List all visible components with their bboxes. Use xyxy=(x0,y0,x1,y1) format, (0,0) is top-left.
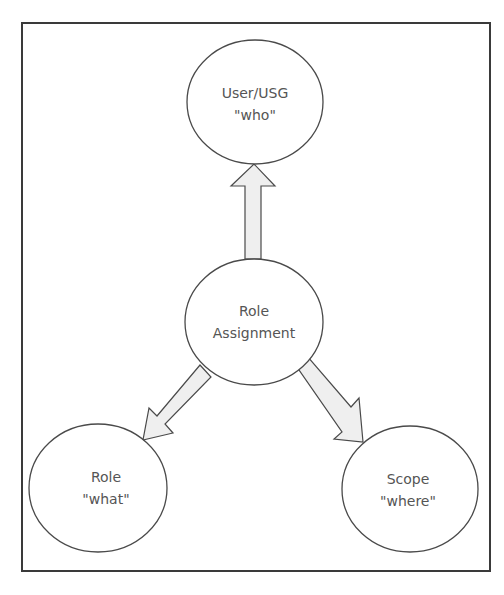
arrow-to-scope xyxy=(297,357,363,442)
node-scope: Scope "where" xyxy=(342,426,478,552)
node-role-title: Role xyxy=(91,469,121,485)
node-scope-subtitle: "where" xyxy=(380,493,436,509)
node-role-subtitle: "what" xyxy=(82,491,129,507)
node-role: Role "what" xyxy=(29,424,167,552)
arrow-to-user xyxy=(231,164,275,259)
node-role-circle xyxy=(29,424,167,552)
node-role-assignment-circle xyxy=(185,259,323,385)
node-user-subtitle: "who" xyxy=(234,107,276,123)
node-role-assignment: Role Assignment xyxy=(185,259,323,385)
node-scope-title: Scope xyxy=(387,471,430,487)
node-role-assignment-subtitle: Assignment xyxy=(213,325,296,341)
node-user: User/USG "who" xyxy=(187,40,323,164)
node-scope-circle xyxy=(342,426,478,552)
arrow-to-role xyxy=(143,365,211,440)
node-user-circle xyxy=(187,40,323,164)
node-role-assignment-title: Role xyxy=(239,303,269,319)
node-user-title: User/USG xyxy=(222,85,289,101)
role-assignment-diagram: User/USG "who" Role Assignment Role "wha… xyxy=(0,0,504,595)
